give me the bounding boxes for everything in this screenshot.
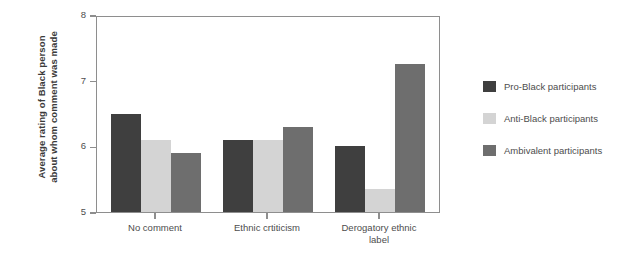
legend-item-label: Anti-Black participants xyxy=(504,113,598,124)
y-axis-tick-mark xyxy=(90,81,96,82)
chart-legend: Pro-Black participantsAnti-Black partici… xyxy=(483,70,623,166)
plot-area xyxy=(96,16,440,213)
legend-item[interactable]: Anti-Black participants xyxy=(483,102,623,134)
y-axis-tick-label: 8 xyxy=(68,9,86,20)
bar xyxy=(283,127,313,212)
bar xyxy=(365,189,395,212)
legend-swatch-icon xyxy=(483,113,496,124)
y-axis-tick-mark xyxy=(90,212,96,213)
legend-item[interactable]: Ambivalent participants xyxy=(483,134,623,166)
legend-swatch-icon xyxy=(483,81,496,92)
y-axis-title-line1: Average rating of Black person xyxy=(36,31,48,183)
y-axis-tick-mark xyxy=(90,15,96,16)
bar xyxy=(335,146,365,212)
y-axis-tick-label: 6 xyxy=(68,140,86,151)
y-axis-tick-mark xyxy=(90,147,96,148)
bar xyxy=(395,64,425,212)
x-axis-tick-mark xyxy=(266,213,267,219)
legend-item[interactable]: Pro-Black participants xyxy=(483,70,623,102)
y-axis-title: Average rating of Black person about who… xyxy=(0,0,96,214)
x-axis-tick-mark xyxy=(378,213,379,219)
bar xyxy=(171,153,201,212)
bar xyxy=(141,140,171,212)
x-axis-category-label: Derogatory ethnic label xyxy=(309,222,449,245)
y-axis-tick-label: 7 xyxy=(68,75,86,86)
legend-item-label: Ambivalent participants xyxy=(504,145,602,156)
legend-swatch-icon xyxy=(483,145,496,156)
bar xyxy=(253,140,283,212)
bars-layer xyxy=(97,17,439,212)
x-axis-tick-mark xyxy=(154,213,155,219)
y-axis-title-line2: about whom comment was made xyxy=(48,31,60,183)
y-axis-tick-label: 5 xyxy=(68,206,86,217)
bar xyxy=(111,114,141,213)
legend-item-label: Pro-Black participants xyxy=(504,81,596,92)
bar xyxy=(223,140,253,212)
